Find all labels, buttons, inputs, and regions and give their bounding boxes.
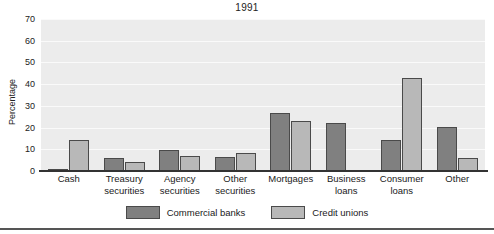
legend-item-0[interactable]: Commercial banks xyxy=(126,206,246,219)
y-tick-label-10: 10 xyxy=(25,145,35,154)
bar-group xyxy=(319,19,375,171)
bar xyxy=(437,127,457,172)
bar xyxy=(159,150,179,171)
y-tick-label-40: 40 xyxy=(25,80,35,89)
bar-group xyxy=(374,19,430,171)
legend-swatch-icon xyxy=(126,206,160,219)
bar-group xyxy=(152,19,208,171)
bar-chart: 1991 Percentage 010203040506070 CashTrea… xyxy=(0,0,494,234)
bar xyxy=(381,140,401,171)
bar-group xyxy=(41,19,97,171)
bar xyxy=(69,140,89,171)
x-axis-category-labels: CashTreasurysecuritiesAgencysecuritiesOt… xyxy=(41,173,485,199)
bars-layer xyxy=(41,19,485,171)
bar xyxy=(326,123,346,171)
y-tick-label-60: 60 xyxy=(25,36,35,45)
x-axis-label-line-0: Other xyxy=(422,173,494,185)
bar xyxy=(180,156,200,171)
bar xyxy=(402,78,422,171)
bar xyxy=(270,113,290,171)
x-axis-label-line-1: securities xyxy=(200,185,272,197)
bottom-divider xyxy=(0,228,494,230)
bar xyxy=(215,157,235,171)
bar xyxy=(291,121,311,171)
y-axis-ticks: 010203040506070 xyxy=(0,19,38,171)
y-tick-label-70: 70 xyxy=(25,15,35,24)
x-axis-line xyxy=(39,170,488,172)
y-tick-label-30: 30 xyxy=(25,101,35,110)
chart-title: 1991 xyxy=(0,2,494,13)
legend-label: Commercial banks xyxy=(167,207,246,218)
y-tick-label-50: 50 xyxy=(25,58,35,67)
bar-group xyxy=(97,19,153,171)
x-axis-label-line-1: loans xyxy=(366,185,438,197)
bar-group xyxy=(208,19,264,171)
y-tick-label-20: 20 xyxy=(25,123,35,132)
chart-legend: Commercial banksCredit unions xyxy=(0,203,494,221)
legend-label: Credit unions xyxy=(312,207,368,218)
bar-group xyxy=(430,19,486,171)
bar xyxy=(236,153,256,171)
bar-group xyxy=(263,19,319,171)
x-axis-label: Other xyxy=(422,173,494,185)
legend-item-1[interactable]: Credit unions xyxy=(271,206,368,219)
legend-swatch-icon xyxy=(271,206,305,219)
